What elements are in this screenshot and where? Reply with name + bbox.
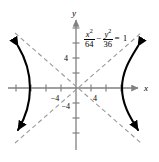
hyperbola-figure: x y −4 4 4 −4 x2 64 − y2 36 =1 xyxy=(0,0,159,162)
equation-x-exponent: 2 xyxy=(90,28,93,34)
equation-y-exponent: 2 xyxy=(108,28,111,34)
x-axis-label: x xyxy=(143,83,148,93)
equation-annotation: x2 64 − y2 36 =1 xyxy=(84,28,129,49)
equation-y-numerator: y2 xyxy=(103,28,114,40)
y-tick-label-positive-4: 4 xyxy=(64,54,68,63)
equation-x-denominator: 64 xyxy=(84,40,95,49)
equation-equals-sign: = xyxy=(113,34,121,43)
equation-y-fraction: y2 36 xyxy=(103,28,114,49)
equation-minus-sign: − xyxy=(95,34,103,43)
equation-right-hand-side: 1 xyxy=(121,34,129,43)
x-tick-label-negative-4: −4 xyxy=(51,94,60,103)
y-tick-label-negative-4: −4 xyxy=(61,102,70,111)
y-axis-label: y xyxy=(71,8,76,18)
equation-x-fraction: x2 64 xyxy=(84,28,95,49)
equation-y-denominator: 36 xyxy=(103,40,114,49)
x-tick-label-positive-4: 4 xyxy=(93,94,97,103)
plot-area: x y −4 4 4 −4 xyxy=(0,0,159,162)
equation-x-numerator: x2 xyxy=(84,28,95,40)
